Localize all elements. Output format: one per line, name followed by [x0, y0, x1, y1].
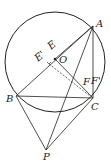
label-a: A — [95, 18, 103, 29]
label-e: E — [44, 38, 58, 52]
label-b: B — [5, 93, 13, 104]
label-f: F — [82, 76, 91, 87]
label-o: O — [59, 54, 67, 65]
right-angle-mark — [47, 62, 51, 64]
segment-bc — [16, 96, 93, 98]
geometry-diagram: A B C P O E E' F F' — [0, 0, 111, 161]
label-eprime: E' — [31, 49, 47, 65]
center-point-o — [54, 58, 57, 61]
segment-pb — [16, 96, 46, 150]
label-fprime: F' — [90, 75, 101, 86]
label-c: C — [91, 101, 99, 112]
segment-pc — [46, 98, 93, 150]
label-p: P — [42, 151, 50, 161]
